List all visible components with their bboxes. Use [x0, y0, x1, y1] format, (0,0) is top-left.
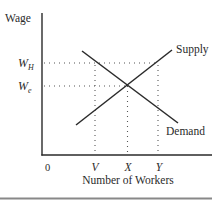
supply-demand-diagram: Wage Number of Workers 0 WH We V X Y Sup…: [0, 0, 222, 203]
x-label: X: [123, 161, 132, 173]
y-label: Y: [156, 161, 164, 173]
supply-label: Supply: [176, 43, 209, 56]
guide-lines: [44, 63, 158, 153]
y-axis-label: Wage: [5, 12, 31, 25]
wh-sub: H: [27, 63, 35, 72]
demand-curve: [82, 51, 178, 123]
wh-label: WH: [18, 56, 35, 72]
supply-curve: [76, 50, 172, 125]
origin-label: 0: [45, 162, 50, 173]
v-label: V: [91, 161, 100, 173]
x-axis-label: Number of Workers: [82, 174, 174, 186]
we-label: We: [18, 79, 32, 95]
we-sub: e: [28, 86, 32, 95]
demand-label: Demand: [166, 125, 205, 137]
